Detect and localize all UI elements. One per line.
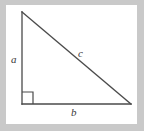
right-angle-square-marker xyxy=(22,92,33,104)
hypotenuse-c xyxy=(22,12,131,104)
figure-root: a b c xyxy=(0,0,144,131)
label-hypotenuse-c: c xyxy=(78,48,83,59)
label-leg-b: b xyxy=(71,107,77,118)
label-leg-a: a xyxy=(11,54,17,65)
